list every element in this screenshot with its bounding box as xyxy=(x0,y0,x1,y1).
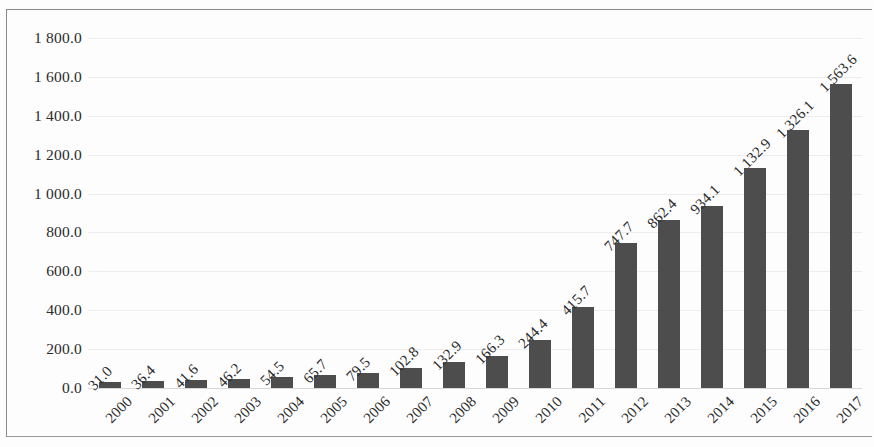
x-tick-label: 2004 xyxy=(274,393,308,427)
bar xyxy=(572,307,594,388)
y-tick-label: 0.0 xyxy=(10,379,82,397)
x-tick-label: 2012 xyxy=(618,393,652,427)
x-tick-label: 2003 xyxy=(231,393,265,427)
y-tick-label: 200.0 xyxy=(10,340,82,358)
y-tick-label: 600.0 xyxy=(10,262,82,280)
gridline-1600 xyxy=(88,77,862,78)
x-tick-label: 2015 xyxy=(747,393,781,427)
bar xyxy=(615,243,637,388)
bar xyxy=(529,340,551,388)
x-tick-label: 2005 xyxy=(317,393,351,427)
y-tick-label: 1 600.0 xyxy=(10,68,82,86)
bar-value-label: 31.0 xyxy=(84,363,115,394)
bar xyxy=(830,84,852,388)
bar xyxy=(658,220,680,388)
x-axis-category-labels: 2000200120022003200420052006200720082009… xyxy=(88,391,862,445)
x-tick-label: 2017 xyxy=(833,393,867,427)
gridline-1400 xyxy=(88,116,862,117)
x-tick-label: 2011 xyxy=(575,393,608,426)
x-tick-label: 2006 xyxy=(360,393,394,427)
plot-area: 0.0200.0400.0600.0800.01 000.01 200.01 4… xyxy=(88,38,862,388)
bar xyxy=(701,206,723,388)
x-tick-label: 2016 xyxy=(790,393,824,427)
y-tick-label: 1 800.0 xyxy=(10,29,82,47)
bar xyxy=(744,168,766,388)
gridline-0 xyxy=(88,388,862,389)
chart-figure: 0.0200.0400.0600.0800.01 000.01 200.01 4… xyxy=(0,0,874,447)
x-tick-label: 2009 xyxy=(489,393,523,427)
x-tick-label: 2000 xyxy=(102,393,136,427)
x-tick-label: 2010 xyxy=(532,393,566,427)
x-tick-label: 2001 xyxy=(145,393,179,427)
x-tick-label: 2002 xyxy=(188,393,222,427)
bar xyxy=(787,130,809,388)
y-tick-label: 400.0 xyxy=(10,301,82,319)
x-tick-label: 2014 xyxy=(704,393,738,427)
y-tick-label: 1 200.0 xyxy=(10,146,82,164)
x-tick-label: 2008 xyxy=(446,393,480,427)
x-tick-label: 2013 xyxy=(661,393,695,427)
x-tick-label: 2007 xyxy=(403,393,437,427)
y-tick-label: 800.0 xyxy=(10,223,82,241)
gridline-1800 xyxy=(88,38,862,39)
y-tick-label: 1 400.0 xyxy=(10,107,82,125)
y-axis-tick-labels: 0.0200.0400.0600.0800.01 000.01 200.01 4… xyxy=(10,38,82,388)
y-tick-label: 1 000.0 xyxy=(10,185,82,203)
